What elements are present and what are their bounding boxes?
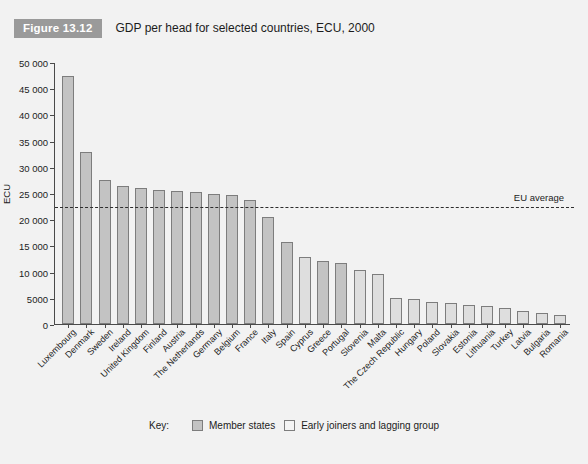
y-axis-tick-label: 0: [0, 320, 48, 331]
chart-legend: Key: Member statesEarly joiners and lagg…: [0, 420, 588, 431]
y-axis-tick-mark: [50, 89, 54, 90]
y-axis-tick-label: 35 000: [0, 136, 48, 147]
figure-title: GDP per head for selected countries, ECU…: [116, 21, 375, 35]
y-axis-tick-mark: [50, 220, 54, 221]
y-axis-tick-label: 20 000: [0, 215, 48, 226]
bar: [208, 194, 220, 325]
bar: [62, 76, 74, 324]
bars-layer: [55, 63, 570, 324]
bar: [426, 302, 438, 324]
legend-swatch: [192, 420, 203, 431]
eu-average-label: EU average: [514, 192, 564, 203]
legend-entry: Member states: [192, 420, 275, 431]
y-axis-tick-mark: [50, 63, 54, 64]
bar: [244, 200, 256, 324]
y-axis-tick-mark: [50, 325, 54, 326]
bar: [299, 257, 311, 324]
bar: [262, 217, 274, 324]
bar: [536, 313, 548, 324]
y-axis-tick-mark: [50, 115, 54, 116]
bar: [554, 315, 566, 324]
y-axis-tick-mark: [50, 168, 54, 169]
figure-header: Figure 13.12 GDP per head for selected c…: [0, 18, 588, 38]
bar: [408, 299, 420, 324]
bar: [190, 192, 202, 324]
y-axis-tick-label: 30 000: [0, 162, 48, 173]
bar: [499, 308, 511, 324]
eu-average-line: [55, 207, 574, 208]
bar: [463, 305, 475, 324]
bar: [517, 311, 529, 324]
y-axis-tick-mark: [50, 246, 54, 247]
bar: [335, 263, 347, 324]
y-axis-tick-label: 15 000: [0, 241, 48, 252]
bar: [445, 303, 457, 324]
figure-container: Figure 13.12 GDP per head for selected c…: [0, 0, 588, 464]
y-axis-tick-label: 45 000: [0, 84, 48, 95]
bar: [281, 242, 293, 324]
bar: [80, 152, 92, 324]
bar: [372, 274, 384, 324]
legend-label: Early joiners and lagging group: [301, 420, 439, 431]
plot-frame: ECU 0500010 00015 00020 00025 00030 0003…: [54, 63, 570, 325]
y-axis-tick-label: 40 000: [0, 110, 48, 121]
y-axis-tick-mark: [50, 299, 54, 300]
legend-entry: Early joiners and lagging group: [284, 420, 439, 431]
y-axis-tick-label: 5000: [0, 293, 48, 304]
bar: [99, 180, 111, 324]
bar: [226, 195, 238, 324]
y-axis-tick-mark: [50, 194, 54, 195]
legend-key-label: Key:: [149, 420, 169, 431]
x-axis-labels: LuxembourgDenmarkSwedenIrelandUnited Kin…: [54, 327, 574, 417]
bar: [171, 191, 183, 324]
y-axis-tick-label: 10 000: [0, 267, 48, 278]
y-axis-tick-mark: [50, 142, 54, 143]
y-axis-tick-mark: [50, 273, 54, 274]
bar: [317, 261, 329, 324]
bar: [135, 188, 147, 324]
legend-label: Member states: [209, 420, 275, 431]
legend-swatch: [284, 420, 295, 431]
bar: [390, 298, 402, 324]
bar: [481, 306, 493, 324]
bar: [354, 270, 366, 324]
y-axis-tick-label: 25 000: [0, 189, 48, 200]
y-axis-tick-label: 50 000: [0, 58, 48, 69]
bar: [153, 190, 165, 324]
figure-number-badge: Figure 13.12: [14, 19, 102, 38]
